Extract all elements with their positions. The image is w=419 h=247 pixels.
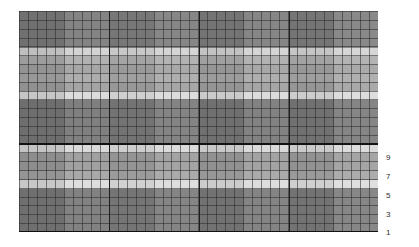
heatmap-band <box>19 82 378 91</box>
heatmap-band <box>19 100 378 143</box>
heatmap-band <box>19 180 378 189</box>
heatmap-band <box>19 189 378 232</box>
heatmap-row-bands <box>19 11 378 232</box>
heatmap-band <box>19 91 378 100</box>
y-tick-label: 3 <box>386 210 390 219</box>
heatmap-band <box>19 153 378 171</box>
y-tick-label: 5 <box>386 191 390 200</box>
heatmap-band <box>19 11 378 48</box>
heatmap-band <box>19 73 378 82</box>
y-tick-label: 9 <box>386 153 390 162</box>
heatmap-band <box>19 48 378 56</box>
y-tick-label: 7 <box>386 172 390 181</box>
figure-canvas: 97531 <box>0 0 419 247</box>
bottom-axis-line <box>19 231 378 232</box>
heatmap-band <box>19 64 378 73</box>
heatmap-band <box>19 171 378 180</box>
heatmap-band <box>19 56 378 64</box>
heatmap-plot-area[interactable] <box>19 11 378 232</box>
y-tick-label: 1 <box>386 228 390 237</box>
mid-separator-line <box>19 143 378 145</box>
